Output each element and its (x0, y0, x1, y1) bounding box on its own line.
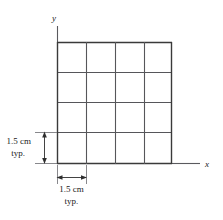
x-axis-label: x (204, 159, 209, 169)
y-axis-label: y (51, 13, 56, 23)
vertical-dimension-value: 1.5 cm (7, 136, 32, 146)
horizontal-dimension-note: typ. (65, 196, 79, 206)
horizontal-dimension-value: 1.5 cm (59, 184, 84, 194)
vertical-dimension-note: typ. (11, 148, 25, 158)
figure-canvas: y x 1.5 cm typ. 1.5 cm typ. (0, 0, 223, 220)
grid-figure: y x 1.5 cm typ. 1.5 cm typ. (0, 0, 223, 220)
